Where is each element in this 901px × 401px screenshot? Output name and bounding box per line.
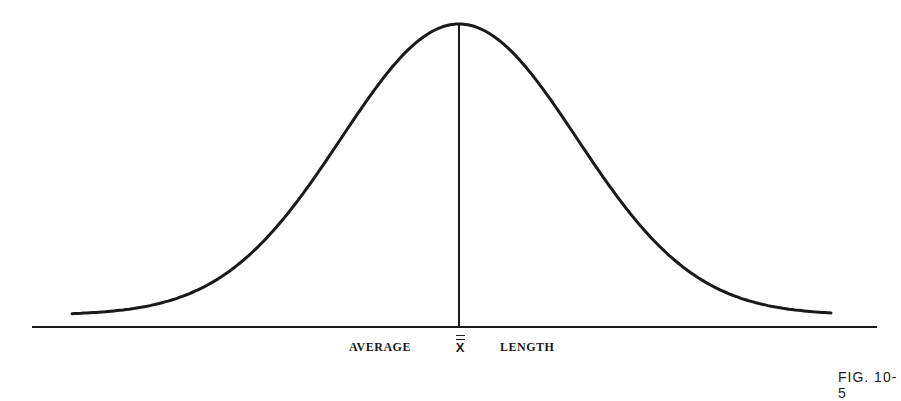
- average-label: AVERAGE: [349, 340, 411, 355]
- mean-symbol-letter: X: [456, 340, 465, 355]
- mean-symbol: X: [454, 335, 466, 355]
- normal-curve: [72, 24, 831, 314]
- length-label: LENGTH: [500, 340, 554, 355]
- figure-number: FIG. 10-5: [838, 369, 901, 401]
